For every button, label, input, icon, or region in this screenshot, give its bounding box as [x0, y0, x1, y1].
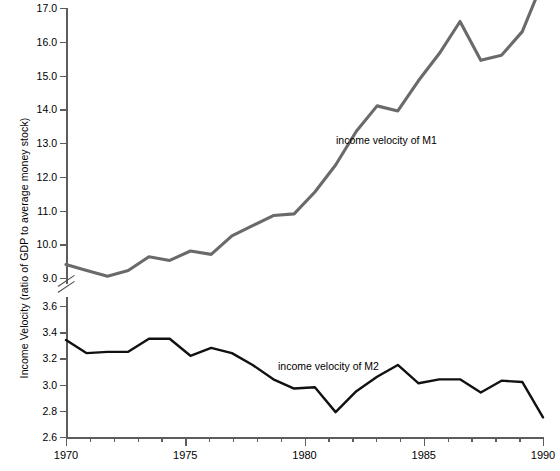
y-tick-label: 3.0 — [42, 379, 57, 390]
x-tick-mark — [257, 437, 258, 442]
y-tick-label: 14.0 — [37, 104, 57, 115]
y-tick-label: 16.0 — [37, 37, 57, 48]
x-tick-mark — [114, 437, 115, 442]
x-tick-mark — [281, 437, 282, 442]
x-tick-mark — [66, 437, 67, 446]
x-tick-label: 1985 — [412, 449, 436, 461]
line-m1 — [66, 0, 543, 276]
x-tick-mark — [90, 437, 91, 442]
x-tick-mark — [400, 437, 401, 442]
x-tick-mark — [543, 437, 544, 446]
x-tick-label: 1980 — [292, 449, 316, 461]
series-lines — [66, 8, 543, 437]
x-tick-mark — [185, 437, 186, 446]
x-tick-mark — [352, 437, 353, 442]
y-tick-label: 15.0 — [37, 70, 57, 81]
x-tick-mark — [233, 437, 234, 442]
y-tick-label: 10.0 — [37, 239, 57, 250]
y-tick-label: 3.2 — [42, 353, 57, 364]
x-tick-mark — [448, 437, 449, 442]
y-tick-label: 2.6 — [42, 432, 57, 443]
y-axis-caption: Income Velocity (ratio of GDP to average… — [18, 38, 30, 458]
x-tick-mark — [376, 437, 377, 442]
y-tick-label: 3.6 — [42, 301, 57, 312]
y-tick-label: 3.4 — [42, 327, 57, 338]
y-tick-label: 2.8 — [42, 406, 57, 417]
y-tick-label: 17.0 — [37, 3, 57, 14]
x-tick-mark — [519, 437, 520, 442]
x-tick-mark — [209, 437, 210, 442]
x-tick-label: 1970 — [54, 449, 78, 461]
y-tick-label: 11.0 — [37, 205, 57, 216]
y-tick-label: 12.0 — [37, 172, 57, 183]
x-tick-mark — [471, 437, 472, 442]
line-m2 — [66, 339, 543, 418]
x-tick-label: 1990 — [531, 449, 555, 461]
series-label-m1: income velocity of M1 — [336, 134, 437, 146]
y-tick-label: 9.0 — [42, 273, 57, 284]
y-tick-label: 13.0 — [37, 138, 57, 149]
x-tick-mark — [328, 437, 329, 442]
chart-root: Income Velocity (ratio of GDP to average… — [0, 0, 560, 471]
x-tick-mark — [495, 437, 496, 442]
series-label-m2: income velocity of M2 — [278, 360, 379, 372]
x-tick-mark — [161, 437, 162, 442]
x-tick-label: 1975 — [173, 449, 197, 461]
plot-area: 9.010.011.012.013.014.015.016.017.02.62.… — [66, 8, 543, 437]
x-tick-mark — [424, 437, 425, 446]
x-tick-mark — [305, 437, 306, 446]
x-tick-mark — [138, 437, 139, 442]
